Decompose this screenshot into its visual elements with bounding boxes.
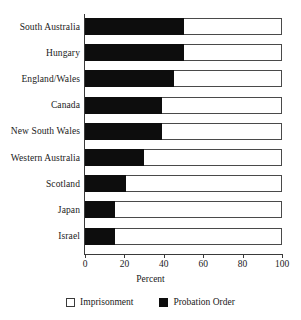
bar-segment-probation-order [85,44,184,61]
x-axis-line [84,254,283,255]
category-label: Western Australia [0,152,80,163]
bar-segment-probation-order [85,70,174,87]
x-axis-tick-label: 40 [149,259,179,269]
bar-segment-probation-order [85,18,184,35]
bar-row [85,97,282,114]
bar-segment-probation-order [85,149,144,166]
x-axis-tick [243,254,244,258]
bar-segment-probation-order [85,175,126,192]
plot-area [85,14,282,254]
bar-segment-probation-order [85,97,162,114]
category-label: Japan [0,205,80,216]
category-label: Scotland [0,178,80,189]
category-label: England/Wales [0,74,80,85]
x-axis-tick [85,254,86,258]
category-label: South Australia [0,21,80,32]
bar-segment-probation-order [85,123,162,140]
x-axis-title: Percent [0,274,301,284]
chart-legend: ImprisonmentProbation Order [0,297,301,307]
bar-row [85,228,282,245]
bar-segment-probation-order [85,228,115,245]
category-label: Hungary [0,47,80,58]
bar-segment-probation-order [85,201,115,218]
bar-row [85,70,282,87]
legend-item: Imprisonment [66,297,133,307]
legend-swatch-white [66,298,75,307]
x-axis-tick [124,254,125,258]
x-axis-tick-label: 20 [109,259,139,269]
bar-segment-imprisonment [85,228,282,245]
x-axis-tick [203,254,204,258]
legend-label: Imprisonment [80,297,133,307]
x-axis-tick-label: 0 [70,259,100,269]
category-label: Israel [0,231,80,242]
x-axis-tick-label: 80 [228,259,258,269]
x-axis-tick [164,254,165,258]
stacked-bar-chart: South AustraliaHungaryEngland/WalesCanad… [0,0,301,320]
legend-label: Probation Order [173,297,234,307]
bar-row [85,123,282,140]
category-label: New South Wales [0,126,80,137]
x-axis-tick-label: 100 [267,259,297,269]
bar-row [85,175,282,192]
x-axis-tick-label: 60 [188,259,218,269]
legend-swatch-black [159,298,168,307]
x-axis-tick [282,254,283,258]
bar-row [85,201,282,218]
bar-segment-imprisonment [85,201,282,218]
bar-row [85,18,282,35]
legend-item: Probation Order [159,297,234,307]
bar-row [85,149,282,166]
category-label: Canada [0,100,80,111]
bar-row [85,44,282,61]
